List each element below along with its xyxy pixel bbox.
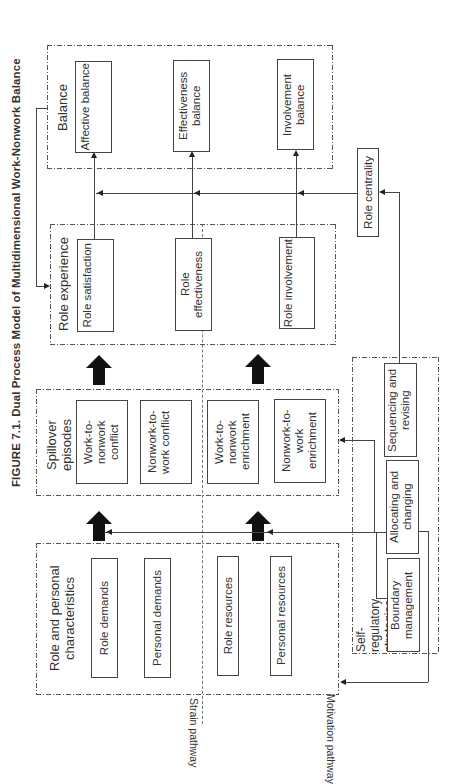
role-resources-box: Role resources [217, 556, 239, 676]
boundary-to-characteristics-line [342, 682, 428, 683]
allocating-down-line [428, 531, 429, 682]
affective-balance-box: Affective balance [75, 61, 112, 153]
spillover-group-label: Spillover episodes [43, 400, 75, 490]
boundary-left-stub [376, 598, 387, 599]
nonwork-to-work-conflict-text: Nonwork-to-work conflict [146, 401, 186, 483]
effectiveness-to-effectiveness-line [192, 157, 193, 238]
role-centrality-box: Role centrality [357, 148, 379, 237]
work-to-nonwork-enrichment-box: Work-to-nonwork enrichment [207, 400, 259, 484]
arrowhead-up-icon [189, 151, 195, 157]
feedback-line-top [36, 108, 48, 109]
boundary-management-box: Boundary management [387, 558, 420, 652]
boundary-up-line [376, 532, 377, 598]
allocating-and-changing-box: Allocating and changing [386, 460, 419, 554]
characteristics-group-label: Role and personal characteristics [45, 556, 79, 681]
role-demands-text: Role demands [98, 581, 111, 655]
arrowhead-left-icon [339, 437, 345, 443]
motivation-arrow-to-role-experience-icon [245, 354, 271, 384]
sequencing-and-revising-box: Sequencing and revising [384, 363, 417, 457]
arrowhead-left-icon [340, 679, 346, 685]
strain-pathway-text: Strain pathway [188, 698, 200, 767]
role-demands-box: Role demands [91, 558, 118, 678]
satisfaction-to-affective-line [94, 158, 95, 239]
personal-demands-text: Personal demands [151, 570, 164, 666]
figure-title-text: FIGURE 7.1. Dual Process Model of Multid… [10, 58, 22, 487]
affective-balance-text: Affective balance [79, 63, 109, 150]
characteristics-label-text: Role and personal characteristics [47, 556, 77, 681]
arrowhead-up-icon [91, 152, 97, 158]
arrowhead-left-icon [298, 190, 304, 196]
involvement-balance-text: Involvement balance [281, 60, 311, 149]
role-involvement-box: Role involvement [279, 237, 315, 329]
sequencing-and-revising-text: Sequencing and revising [386, 364, 416, 456]
motivation-pathway-label: Motivation pathway [323, 694, 337, 784]
role-involvement-text: Role involvement [282, 239, 312, 327]
personal-demands-box: Personal demands [144, 558, 171, 678]
allocating-and-changing-text: Allocating and changing [388, 461, 418, 553]
arrowhead-left-icon [97, 190, 103, 196]
spillover-label-text: Spillover episodes [44, 400, 74, 490]
role-effectiveness-text: Role effectiveness [179, 239, 209, 330]
arrowhead-left-icon [267, 529, 273, 535]
work-to-nonwork-conflict-box: Work-to-nonwork conflict [76, 400, 128, 484]
allocating-to-spillover-line-horizontal [340, 440, 374, 441]
nonwork-to-work-enrichment-text: Nonwork-to-work enrichment [280, 400, 320, 482]
nonwork-to-work-enrichment-box: Nonwork-to-work enrichment [274, 399, 326, 483]
allocating-to-spillover-line-vertical [374, 440, 375, 532]
boundary-management-text: Boundary management [389, 559, 419, 651]
work-to-nonwork-enrichment-text: Work-to-nonwork enrichment [213, 401, 253, 483]
balance-group-label: Balance [54, 80, 70, 136]
role-satisfaction-text: Role satisfaction [81, 243, 111, 327]
characteristics-group [36, 543, 339, 695]
feedback-line-vertical [36, 108, 37, 286]
involvement-balance-box: Involvement balance [277, 59, 314, 150]
effectiveness-balance-text: Effectiveness balance [177, 61, 207, 151]
role-experience-group-label: Role experience [55, 228, 71, 340]
arrowhead-right-icon [44, 283, 50, 289]
strain-pathway-label: Strain pathway [186, 698, 200, 778]
strategy-to-arrows-line [104, 532, 374, 533]
role-experience-label-text: Role experience [56, 237, 71, 331]
sequencing-to-centrality-line-vertical [399, 192, 400, 363]
effectiveness-balance-box: Effectiveness balance [173, 60, 210, 152]
personal-resources-box: Personal resources [270, 556, 292, 676]
figure-title: FIGURE 7.1. Dual Process Model of Multid… [8, 58, 24, 532]
allocating-right-stub [419, 531, 428, 532]
nonwork-to-work-conflict-box: Nonwork-to-work conflict [140, 400, 192, 484]
arrowhead-left-icon [379, 189, 385, 195]
role-centrality-text: Role centrality [362, 156, 375, 229]
motivation-arrow-to-spillover-icon [245, 511, 271, 541]
motivation-pathway-text: Motivation pathway [325, 694, 337, 784]
role-effectiveness-box: Role effectiveness [175, 238, 212, 331]
work-to-nonwork-conflict-text: Work-to-nonwork conflict [82, 401, 122, 483]
strain-arrow-to-spillover-icon [86, 511, 112, 541]
role-resources-text: Role resources [222, 577, 235, 654]
personal-resources-text: Personal resources [275, 566, 288, 665]
arrowhead-up-icon [293, 150, 299, 156]
strain-arrow-to-role-experience-icon [86, 355, 112, 385]
arrowhead-left-icon [106, 529, 112, 535]
balance-label-text: Balance [55, 85, 70, 132]
role-centrality-moderation-line [96, 193, 357, 194]
involvement-to-involvement-line [296, 156, 297, 237]
arrowhead-left-icon [194, 190, 200, 196]
role-satisfaction-box: Role satisfaction [77, 239, 114, 332]
